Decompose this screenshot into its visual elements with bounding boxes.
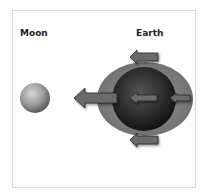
- tidal-diagram: [0, 0, 204, 196]
- moon-sphere: [20, 83, 50, 113]
- arrow-top-icon: [130, 50, 158, 64]
